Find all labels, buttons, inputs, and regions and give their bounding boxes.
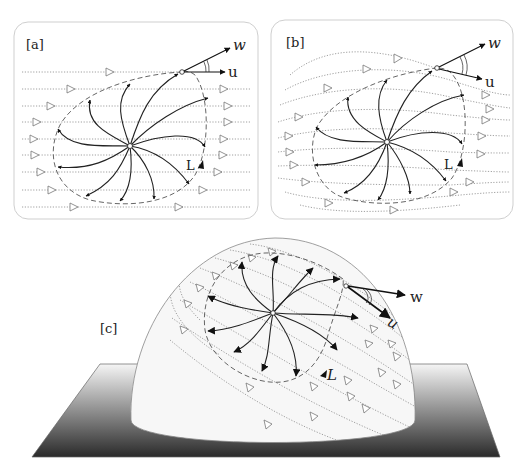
u-label: u	[228, 63, 238, 81]
panel-a: [a] w u L	[14, 22, 258, 219]
l-label: L	[326, 366, 337, 384]
panel-c-label: [c]	[100, 321, 117, 336]
panel-b-frame	[271, 20, 513, 219]
u-label: u	[485, 73, 495, 91]
stagnation-point	[180, 70, 185, 75]
w-label: w	[488, 34, 501, 52]
l-label: L	[186, 158, 195, 173]
w-label: w	[410, 288, 423, 306]
panel-b-label: [b]	[286, 35, 304, 50]
panel-a-label: [a]	[26, 37, 44, 52]
source-point	[128, 144, 133, 149]
source-point	[271, 311, 276, 316]
panel-b: [b] w u L	[271, 20, 513, 219]
stagnation-point	[435, 66, 440, 71]
flow-diagram: [a] w u L	[0, 0, 523, 472]
source-point	[385, 140, 390, 145]
l-label: L	[444, 157, 453, 172]
panel-c: [c] w u L	[32, 238, 500, 457]
w-label: w	[233, 36, 246, 54]
stagnation-point	[344, 284, 348, 288]
